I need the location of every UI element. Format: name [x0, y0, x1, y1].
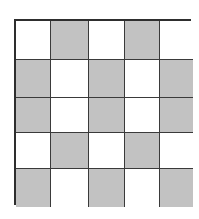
grid-cell-r3-c1	[16, 98, 51, 133]
grid-cell-r3-c5	[160, 98, 193, 133]
grid-cell-r2-c5	[160, 60, 193, 98]
grid-cell-r5-c5	[160, 169, 193, 207]
grid-cell-r1-c1	[16, 21, 51, 60]
grid-cell-r2-c4	[125, 60, 160, 98]
grid-cell-r1-c3	[89, 21, 125, 60]
grid-cell-r3-c2	[51, 98, 89, 133]
grid-cell-r1-c4	[125, 21, 160, 60]
grid-cell-r5-c3	[89, 169, 125, 207]
grid-cell-r4-c1	[16, 133, 51, 169]
grid-cell-r2-c2	[51, 60, 89, 98]
grid-cell-r5-c4	[125, 169, 160, 207]
grid-cell-r4-c3	[89, 133, 125, 169]
grid-cell-r2-c3	[89, 60, 125, 98]
grid-cell-r4-c5	[160, 133, 193, 169]
grid-cell-r4-c4	[125, 133, 160, 169]
grid-cell-r4-c2	[51, 133, 89, 169]
grid-cell-r5-c1	[16, 169, 51, 207]
grid-cell-r5-c2	[51, 169, 89, 207]
grid-cell-r1-c5	[160, 21, 193, 60]
grid-cell-r2-c1	[16, 60, 51, 98]
grid-cell-r3-c3	[89, 98, 125, 133]
grid-cell-r1-c2	[51, 21, 89, 60]
grid-cell-r3-c4	[125, 98, 160, 133]
checkerboard-grid	[14, 19, 191, 205]
